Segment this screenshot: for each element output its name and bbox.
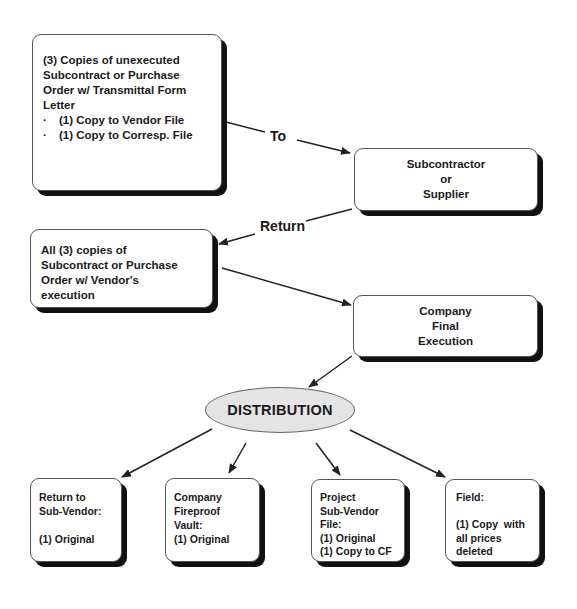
bullet-icon: · xyxy=(43,113,59,128)
node-project-sub-vendor-file: Project Sub-Vendor File: (1) Original (1… xyxy=(311,479,405,562)
edge-return-line-a xyxy=(306,209,352,221)
node-return-to-sub-vendor: Return to Sub-Vendor: (1) Original xyxy=(30,478,122,562)
node-text-line: (1) Original xyxy=(320,532,404,546)
node-text-line: Order w/ Transmittal Form xyxy=(43,83,221,98)
node-text-line: all prices xyxy=(456,532,539,546)
node-text-line: Execution xyxy=(354,334,537,349)
node-subcontractor-supplier: Subcontractor or Supplier xyxy=(354,148,538,211)
node-text-line: Company xyxy=(174,490,259,504)
node-text-line: Supplier xyxy=(355,187,537,202)
edge-label-to: To xyxy=(270,128,286,144)
edge-to-line-a xyxy=(222,121,265,132)
node-text-line: (1) Copy with xyxy=(456,518,539,532)
node-text-line: (3) Copies of unexecuted xyxy=(43,53,221,68)
node-text-line: Field: xyxy=(456,491,539,505)
node-text-line: Final xyxy=(354,319,537,334)
node-text-line: Sub-Vendor: xyxy=(39,504,121,518)
node-text-line: Project xyxy=(320,491,404,505)
node-text-line: Fireproof xyxy=(174,504,259,518)
bullet-item: ·(1) Copy to Vendor File xyxy=(43,113,221,128)
node-field: Field: (1) Copy with all prices deleted xyxy=(445,479,540,562)
edge-final-distribution xyxy=(309,356,352,387)
node-text-line: Order w/ Vendor's xyxy=(41,273,212,288)
node-text-line: Vault: xyxy=(174,518,259,532)
edge-to-line-b xyxy=(297,140,350,153)
node-text-line: or xyxy=(355,172,537,187)
node-text-line: File: xyxy=(320,518,404,532)
bullet-item: ·(1) Copy to Corresp. File xyxy=(43,128,221,143)
node-text-line: All (3) copies of xyxy=(41,243,212,258)
edge-dist-return-vendor xyxy=(122,429,212,477)
bullet-text: (1) Copy to Vendor File xyxy=(59,114,184,126)
node-text-line: deleted xyxy=(456,545,539,559)
node-text-line: (1) Original xyxy=(174,532,259,546)
node-text-line xyxy=(39,518,121,532)
node-text-line: Company xyxy=(354,304,537,319)
node-distribution: DISTRIBUTION xyxy=(205,387,355,433)
node-text-line: Subcontractor xyxy=(355,157,537,172)
node-text-line: (1) Copy to CF xyxy=(320,545,404,559)
node-text-line: Sub-Vendor xyxy=(320,505,404,519)
node-text-line: execution xyxy=(41,288,212,303)
node-company-fireproof-vault: Company Fireproof Vault: (1) Original xyxy=(165,478,260,562)
node-unexecuted-copies: (3) Copies of unexecuted Subcontract or … xyxy=(32,34,222,191)
node-returned-copies: All (3) copies of Subcontract or Purchas… xyxy=(30,229,213,308)
node-text-line: Letter xyxy=(43,98,221,113)
edge-label-return: Return xyxy=(260,218,305,234)
bullet-text: (1) Copy to Corresp. File xyxy=(59,129,193,141)
node-text-line xyxy=(456,505,539,519)
edge-dist-project xyxy=(316,443,340,475)
node-text-line: Subcontract or Purchase xyxy=(43,68,221,83)
bullet-icon: · xyxy=(43,128,59,143)
node-text-line: Return to xyxy=(39,490,121,504)
edge-return-line-b xyxy=(219,234,255,244)
edge-returned-final xyxy=(222,268,351,305)
node-company-final-execution: Company Final Execution xyxy=(353,295,538,357)
node-text-line: Subcontract or Purchase xyxy=(41,258,212,273)
edge-dist-field xyxy=(350,430,445,477)
node-text-line: (1) Original xyxy=(39,532,121,546)
edge-dist-vault xyxy=(229,443,246,473)
